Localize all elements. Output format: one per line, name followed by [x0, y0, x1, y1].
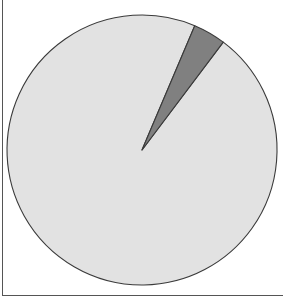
pie-chart-figure: [0, 0, 285, 302]
pie-chart-svg: [0, 0, 285, 302]
pie-slices-group: [7, 15, 277, 285]
